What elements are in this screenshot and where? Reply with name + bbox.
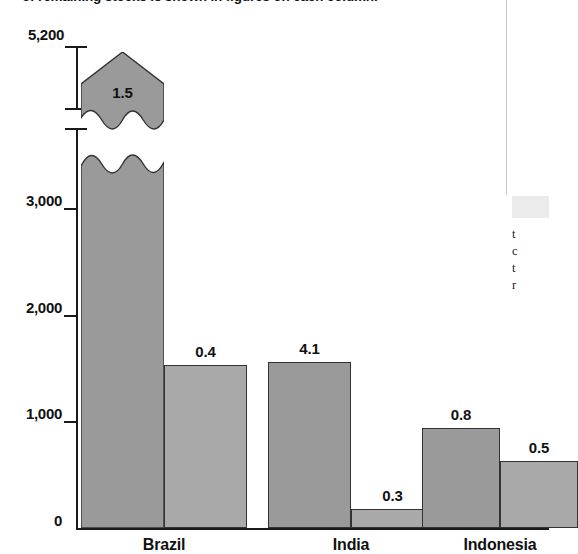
- y-axis-tick-label: 2,000: [0, 299, 62, 316]
- y-axis-tick: [64, 208, 76, 210]
- bar-india-series-1[interactable]: [268, 362, 351, 528]
- y-axis-tick-label: 0: [0, 512, 62, 529]
- bar-indonesia-series-2[interactable]: [500, 461, 578, 528]
- y-axis-tick-label: 5,200: [0, 26, 64, 43]
- bar-value-label: 0.5: [500, 439, 578, 456]
- y-axis-tick-label: 3,000: [0, 192, 62, 209]
- category-label-indonesia: Indonesia: [430, 536, 570, 554]
- bar-broken-lower[interactable]: [81, 152, 164, 528]
- y-axis-upper: [76, 46, 78, 108]
- bar-value-label: 4.1: [268, 340, 351, 357]
- y-axis-tick: [65, 46, 87, 48]
- category-label-india: India: [281, 536, 421, 554]
- bar-indonesia-series-1[interactable]: [422, 428, 500, 528]
- y-axis-tick: [64, 315, 76, 317]
- y-axis-tick: [64, 421, 76, 423]
- bar-value-label: 1.5: [81, 84, 164, 101]
- y-axis-lower: [76, 128, 78, 530]
- bar-value-label: 0.8: [422, 406, 500, 423]
- bar-value-label: 0.4: [164, 343, 247, 360]
- y-axis-tick-label: 1,000: [0, 405, 62, 422]
- x-axis-baseline: [76, 528, 549, 530]
- category-label-brazil: Brazil: [94, 536, 234, 554]
- bar-brazil-series-2[interactable]: [164, 365, 247, 528]
